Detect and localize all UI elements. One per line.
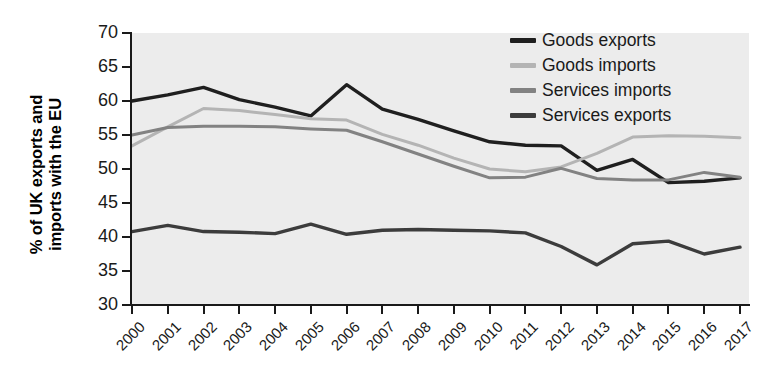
x-tick-label: 2016	[674, 318, 720, 364]
legend-item-label: Goods exports	[542, 32, 656, 50]
x-tick-mark	[203, 305, 205, 314]
x-axis-line	[130, 304, 750, 306]
x-tick-mark	[560, 305, 562, 314]
y-tick-mark	[122, 304, 131, 306]
x-tick-mark	[274, 305, 276, 314]
x-tick-label: 2004	[245, 318, 291, 364]
legend-item-label: Goods imports	[542, 57, 656, 75]
x-tick-label: 2007	[352, 318, 398, 364]
y-tick-label: 35	[72, 261, 118, 279]
x-tick-mark	[453, 305, 455, 314]
legend-color-swatch	[510, 63, 536, 68]
legend-color-swatch	[510, 38, 536, 43]
x-tick-label: 2012	[531, 318, 577, 364]
x-tick-mark	[739, 305, 741, 314]
x-tick-label: 2009	[424, 318, 470, 364]
x-tick-mark	[596, 305, 598, 314]
x-tick-label: 2001	[138, 318, 184, 364]
x-tick-mark	[417, 305, 419, 314]
x-tick-label: 2014	[603, 318, 649, 364]
x-tick-mark	[238, 305, 240, 314]
x-tick-label: 2000	[102, 318, 148, 364]
y-tick-label: 55	[72, 125, 118, 143]
x-tick-label: 2013	[567, 318, 613, 364]
y-tick-label: 30	[72, 295, 118, 313]
y-tick-label: 45	[72, 193, 118, 211]
x-tick-label: 2008	[388, 318, 434, 364]
x-tick-mark	[346, 305, 348, 314]
y-tick-label: 40	[72, 227, 118, 245]
legend-item[interactable]: Services exports	[510, 103, 750, 128]
x-tick-label: 2002	[174, 318, 220, 364]
y-tick-label: 50	[72, 159, 118, 177]
x-tick-mark	[167, 305, 169, 314]
x-tick-label: 2006	[317, 318, 363, 364]
x-tick-label: 2017	[710, 318, 756, 364]
legend-color-swatch	[510, 88, 536, 93]
y-tick-mark	[122, 134, 131, 136]
x-tick-label: 2003	[209, 318, 255, 364]
y-tick-label: 60	[72, 91, 118, 109]
series-line	[132, 224, 740, 265]
legend-item[interactable]: Services imports	[510, 78, 750, 103]
y-tick-mark	[122, 202, 131, 204]
legend-item-label: Services imports	[542, 82, 671, 100]
y-tick-mark	[122, 100, 131, 102]
chart-legend: Goods exportsGoods importsServices impor…	[510, 28, 750, 128]
x-tick-label: 2010	[460, 318, 506, 364]
x-tick-mark	[131, 305, 133, 314]
y-tick-mark	[122, 32, 131, 34]
x-tick-mark	[667, 305, 669, 314]
legend-color-swatch	[510, 113, 536, 118]
y-tick-mark	[122, 168, 131, 170]
y-axis-title: % of UK exports and imports with the EU	[27, 24, 66, 324]
y-tick-label: 70	[72, 23, 118, 41]
x-tick-mark	[632, 305, 634, 314]
x-tick-label: 2015	[639, 318, 685, 364]
x-tick-mark	[381, 305, 383, 314]
x-tick-label: 2011	[495, 318, 541, 364]
x-tick-mark	[703, 305, 705, 314]
line-chart-figure: % of UK exports and imports with the EU …	[0, 0, 759, 382]
x-tick-mark	[489, 305, 491, 314]
y-tick-mark	[122, 236, 131, 238]
legend-item[interactable]: Goods exports	[510, 28, 750, 53]
x-tick-label: 2005	[281, 318, 327, 364]
y-tick-mark	[122, 270, 131, 272]
y-tick-mark	[122, 66, 131, 68]
y-tick-label: 65	[72, 57, 118, 75]
legend-item-label: Services exports	[542, 107, 671, 125]
legend-item[interactable]: Goods imports	[510, 53, 750, 78]
x-tick-mark	[524, 305, 526, 314]
x-tick-mark	[310, 305, 312, 314]
